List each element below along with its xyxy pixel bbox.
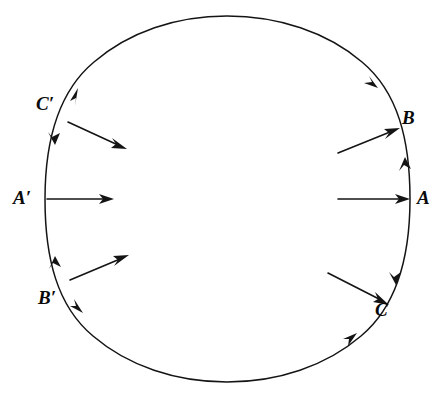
radial-arrow-shaft-C [328, 273, 379, 299]
circle-arrowhead-lower-left [70, 299, 83, 313]
radial-arrow-to-A [338, 194, 410, 204]
vertex-label-C: C [375, 300, 388, 319]
vertex-label-A-prime: A′ [13, 188, 31, 207]
vertex-label-A: A [417, 188, 430, 207]
radial-arrow-from-A-prime [47, 194, 114, 204]
vertex-label-C-prime: C′ [36, 94, 54, 113]
vertex-label-B: B [402, 108, 415, 127]
circle-arrowhead-upper-left [70, 88, 78, 106]
vertex-label-B-prime: B′ [38, 288, 56, 307]
radial-arrow-shaft-B-prime [70, 259, 120, 280]
circle-arrowhead-upper-right [364, 76, 378, 88]
radial-arrow-to-B [338, 128, 400, 153]
radial-arrow-shaft-B [338, 132, 390, 153]
radial-arrow-shaft-C-prime [68, 122, 118, 145]
radial-arrow-from-B-prime [70, 255, 129, 280]
circle-arrowheads-group [48, 76, 411, 346]
figure-container: C′ A′ B′ B A C [0, 0, 441, 407]
radial-arrow-from-C-prime [68, 122, 127, 149]
circle-diagram-canvas [0, 0, 441, 407]
